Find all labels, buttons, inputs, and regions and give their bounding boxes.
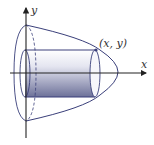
x-axis-label: x xyxy=(141,58,148,71)
point-marker xyxy=(94,48,97,51)
point-label: (x, y) xyxy=(99,37,127,50)
y-axis-label: y xyxy=(30,4,38,17)
diagram-canvas: y x (x, y) xyxy=(0,0,154,145)
